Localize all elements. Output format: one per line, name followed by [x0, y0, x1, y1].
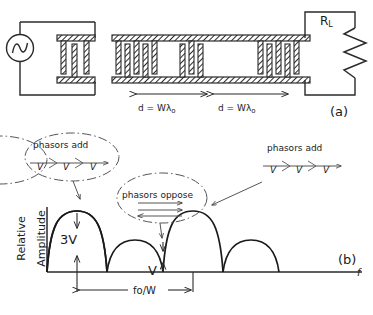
- callout-text-phasors-oppose: phasors oppose: [122, 190, 193, 200]
- y-axis-label-line1: Relative: [15, 200, 28, 278]
- phasor-label-v3: V: [90, 162, 96, 172]
- ac-source: [7, 35, 34, 62]
- callout-phasors-oppose: [117, 173, 207, 238]
- main-lobe-amplitude-label: 3V: [60, 232, 77, 247]
- side-lobe-amplitude-label: V: [148, 263, 157, 278]
- response-curve: [47, 211, 279, 272]
- output-transducer: [112, 35, 310, 83]
- input-transducer: [57, 35, 95, 83]
- lobe-spacing-label: fo/W: [133, 285, 156, 296]
- panel-a-label: (a): [330, 104, 348, 119]
- load-resistor-label: RL: [320, 14, 333, 29]
- dimension-label-right: d = Wλo: [218, 103, 256, 115]
- phasor-label-v6: V: [323, 165, 329, 175]
- saw-filter-figure: [0, 0, 373, 315]
- x-axis-label: f: [357, 267, 361, 278]
- y-axis-label-line2: Amplitude: [35, 200, 48, 278]
- phasor-label-v1: V: [37, 162, 43, 172]
- phasor-label-v5: V: [296, 165, 302, 175]
- load-resistor-zigzag: [344, 28, 366, 78]
- callout-text-phasors-add-left: phasors add: [33, 140, 88, 150]
- plot-axes: [47, 207, 362, 272]
- callout-text-phasors-add-right: phasors add: [267, 143, 322, 153]
- phasor-label-v2: V: [63, 162, 69, 172]
- phasor-label-v4: V: [270, 165, 276, 175]
- panel-b-label: (b): [338, 252, 356, 267]
- dimension-label-left: d = Wλo: [138, 103, 176, 115]
